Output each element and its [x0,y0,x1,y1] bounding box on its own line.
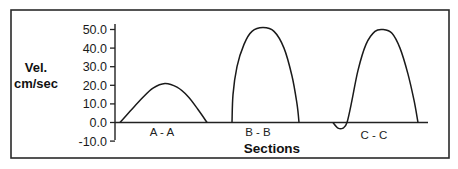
y-tick-label: 20.0 [83,79,107,93]
y-axis-label-line1: Vel. [25,60,47,75]
velocity-curves [120,28,418,129]
y-tick-label: -10.0 [79,135,108,149]
y-tick-label: 0.0 [90,116,107,130]
category-label-c: C - C [361,129,388,141]
y-tick-label: 30.0 [83,60,107,74]
y-axis-label-line2: cm/sec [14,76,58,91]
y-tick-label: 50.0 [83,23,107,37]
category-label-a: A - A [150,126,175,138]
category-label-b: B - B [245,126,271,138]
y-ticks: 50.040.030.020.010.00.0-10.0 [79,23,116,149]
velocity-curve-cc [333,29,418,128]
velocity-chart: Vel. cm/sec 50.040.030.020.010.00.0-10.0… [0,0,458,169]
velocity-curve-aa [120,83,207,122]
x-axis-label: Sections [244,141,300,156]
y-tick-label: 40.0 [83,42,107,56]
velocity-curve-bb [232,28,299,123]
y-tick-label: 10.0 [83,97,107,111]
